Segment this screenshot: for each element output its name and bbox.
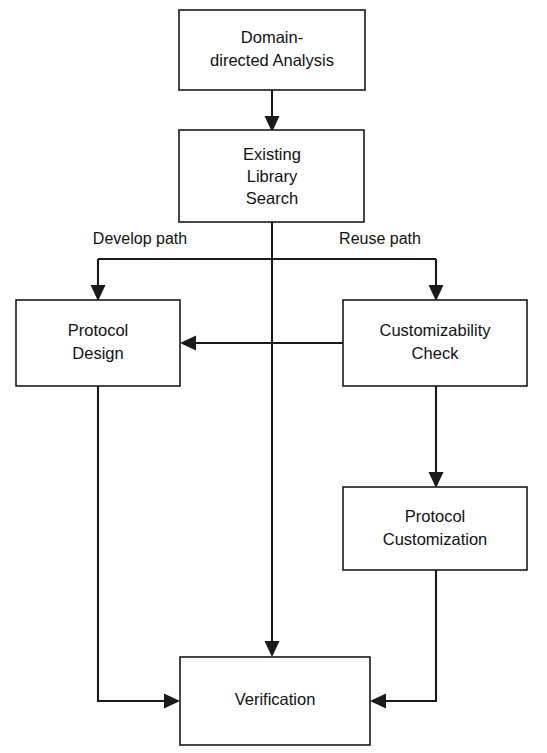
node-protocol-customization[interactable]: Protocol Customization — [343, 487, 527, 570]
node-existing-library-search[interactable]: Existing Library Search — [179, 130, 364, 222]
arrowhead-icon — [91, 285, 106, 301]
edge-search-to-branch-develop — [91, 259, 106, 301]
edge-check-to-design — [180, 336, 343, 351]
node-label-line1: Protocol — [405, 507, 466, 525]
arrowhead-icon — [429, 285, 444, 301]
node-label-line2: directed Analysis — [210, 51, 334, 69]
flowchart-canvas: Develop path Reuse path Domain- directed… — [0, 0, 547, 753]
edge-analysis-to-search — [265, 90, 280, 132]
edge-design-to-verification — [98, 386, 180, 709]
node-label-line1: Protocol — [68, 321, 129, 339]
node-label-line1: Verification — [235, 690, 316, 708]
node-label-line1: Domain- — [241, 28, 303, 46]
arrowhead-icon — [370, 694, 386, 709]
node-box — [343, 487, 527, 570]
node-label-line3: Search — [246, 189, 298, 207]
flowchart-diagram: Develop path Reuse path Domain- directed… — [0, 0, 547, 753]
node-box — [343, 300, 527, 386]
edge-label-develop-path: Develop path — [93, 230, 187, 247]
arrowhead-icon — [164, 694, 180, 709]
edge-label-reuse-path: Reuse path — [339, 230, 421, 247]
node-box — [179, 10, 365, 90]
node-label-line2: Customization — [383, 530, 488, 548]
node-verification[interactable]: Verification — [180, 657, 370, 745]
edge-search-to-branch-reuse — [429, 259, 444, 301]
node-label-line2: Design — [72, 344, 123, 362]
edge-check-to-customization — [429, 386, 444, 488]
edge-customization-to-verification — [370, 570, 436, 709]
node-domain-directed-analysis[interactable]: Domain- directed Analysis — [179, 10, 365, 90]
arrowhead-icon — [429, 472, 444, 488]
node-protocol-design[interactable]: Protocol Design — [16, 300, 180, 386]
arrowhead-icon — [180, 336, 196, 351]
node-label-line2: Library — [247, 167, 298, 185]
node-customizability-check[interactable]: Customizability Check — [343, 300, 527, 386]
node-label-line2: Check — [412, 344, 460, 362]
node-label-line1: Customizability — [380, 321, 492, 339]
node-label-line1: Existing — [243, 145, 301, 163]
arrowhead-icon — [265, 641, 280, 657]
node-box — [16, 300, 180, 386]
edge-search-to-verification — [265, 222, 280, 657]
